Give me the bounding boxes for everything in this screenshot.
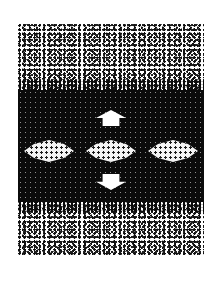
halftone-graphic: Dithered halftone graphic: noise texture… — [18, 24, 204, 256]
